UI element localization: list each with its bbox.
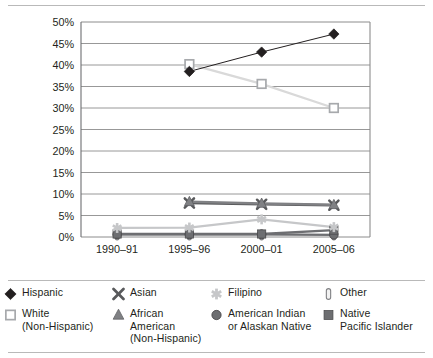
open-square-icon [4,307,17,322]
y-axis-tick-label: 10% [52,188,74,200]
chart-legend: Hispanic Asian Filipino Other White (Non… [0,286,433,348]
data-point-marker [330,104,339,113]
y-axis-tick-label: 50% [52,16,74,28]
legend-top-rule [8,280,425,281]
legend-item-label: Native Pacific Islander [340,307,413,332]
legend-item-label: American Indian or Alaskan Native [228,307,311,332]
series-line [117,230,334,234]
y-axis-tick-label: 25% [52,124,74,136]
legend-item-label: Hispanic [22,286,63,299]
legend-row-2: White (Non-Hispanic) African American (N… [0,307,433,345]
legend-item-american-indian-or-alaskan-native: American Indian or Alaskan Native [206,307,318,345]
x-axis-tick-label: 2005–06 [313,243,355,255]
legend-item-label: White (Non-Hispanic) [22,307,93,332]
chart-plot-area: 0%5%10%15%20%25%30%35%40%45%50%1990–9119… [0,10,433,276]
x-cross-icon [112,286,125,301]
y-axis-tick-label: 35% [52,81,74,93]
y-axis-tick-label: 0% [58,231,74,243]
legend-item-other: Other [318,286,433,301]
y-axis-tick-label: 15% [52,167,74,179]
asterisk-icon [210,286,223,301]
legend-row-1: Hispanic Asian Filipino Other [0,286,433,301]
filled-square-icon [322,307,335,322]
legend-item-native-pacific-islander: Native Pacific Islander [318,307,433,345]
filled-circle-icon [210,307,223,322]
legend-item-filipino: Filipino [206,286,318,301]
data-point-marker [329,29,339,39]
y-axis-tick-label: 40% [52,59,74,71]
x-axis-tick-label: 1990–91 [96,243,138,255]
legend-item-african-american-non-hispanic: African American (Non-Hispanic) [108,307,206,345]
y-axis-tick-label: 20% [52,145,74,157]
filled-triangle-icon [112,307,125,322]
x-axis-tick-label: 1995–96 [168,243,210,255]
filled-diamond-icon [4,286,17,301]
data-point-marker [258,230,266,238]
legend-item-hispanic: Hispanic [0,286,108,301]
legend-item-label: Other [340,286,367,299]
legend-item-label: African American (Non-Hispanic) [130,307,206,345]
x-axis-tick-label: 2000–01 [241,243,283,255]
y-axis-tick-label: 30% [52,102,74,114]
legend-item-white-non-hispanic: White (Non-Hispanic) [0,307,108,345]
data-point-marker [256,47,266,57]
series-line [117,219,334,228]
legend-item-label: Asian [130,286,157,299]
y-axis-tick-label: 5% [58,210,74,222]
y-axis-tick-label: 45% [52,38,74,50]
bottom-divider-rule [8,352,425,353]
line-chart-svg: 0%5%10%15%20%25%30%35%40%45%50%1990–9119… [0,10,433,276]
figure: 0%5%10%15%20%25%30%35%40%45%50%1990–9119… [0,0,433,358]
top-divider-rule [8,5,425,6]
data-point-marker [257,80,266,89]
capsule-icon [322,286,335,301]
legend-item-asian: Asian [108,286,206,301]
legend-item-label: Filipino [228,286,262,299]
